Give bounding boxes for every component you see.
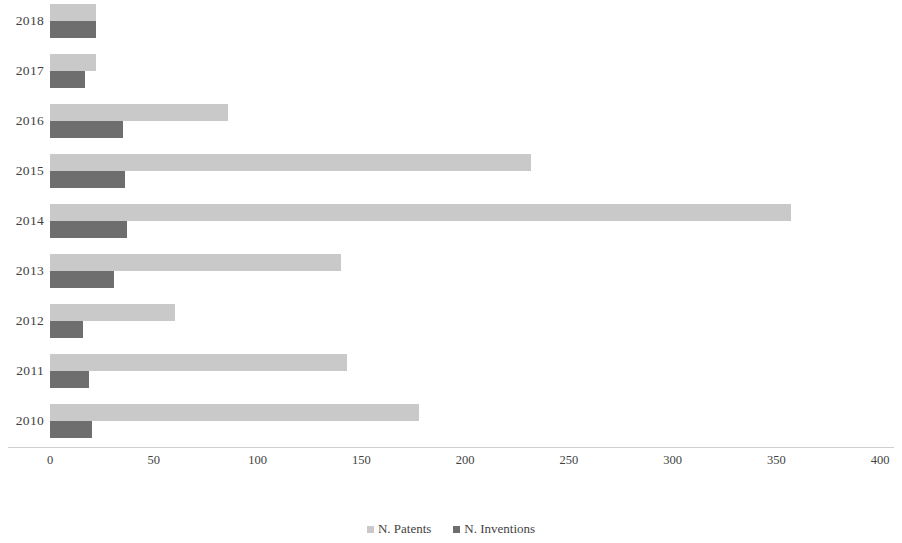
bar-inventions-2012 bbox=[50, 321, 83, 338]
legend-swatch-inventions bbox=[453, 526, 460, 533]
chart-row-2013: 2013 bbox=[0, 250, 902, 300]
x-tick-250: 250 bbox=[559, 453, 578, 468]
category-label: 2013 bbox=[0, 263, 44, 279]
bar-inventions-2011 bbox=[50, 371, 89, 388]
chart-row-2016: 2016 bbox=[0, 100, 902, 150]
bar-patents-2012 bbox=[50, 304, 175, 321]
bar-patents-2017 bbox=[50, 54, 96, 71]
category-label: 2011 bbox=[0, 363, 44, 379]
legend-label-1: N. Inventions bbox=[464, 521, 535, 537]
bar-patents-2013 bbox=[50, 254, 341, 271]
bar-patents-2014 bbox=[50, 204, 791, 221]
category-label: 2016 bbox=[0, 113, 44, 129]
bar-patents-2018 bbox=[50, 4, 96, 21]
x-axis-line bbox=[8, 447, 894, 448]
legend-label-0: N. Patents bbox=[378, 521, 431, 537]
category-label: 2017 bbox=[0, 63, 44, 79]
plot-area: 201820172016201520142013201220112010 bbox=[0, 0, 902, 455]
bar-chart: 201820172016201520142013201220112010 050… bbox=[0, 0, 902, 543]
x-tick-400: 400 bbox=[871, 453, 890, 468]
bar-inventions-2018 bbox=[50, 21, 96, 38]
category-label: 2014 bbox=[0, 213, 44, 229]
x-tick-350: 350 bbox=[767, 453, 786, 468]
legend-item-1: N. Inventions bbox=[453, 521, 535, 537]
chart-row-2017: 2017 bbox=[0, 50, 902, 100]
bar-inventions-2010 bbox=[50, 421, 92, 438]
x-tick-300: 300 bbox=[663, 453, 682, 468]
bar-inventions-2016 bbox=[50, 121, 123, 138]
x-tick-200: 200 bbox=[456, 453, 475, 468]
bar-patents-2011 bbox=[50, 354, 347, 371]
chart-row-2012: 2012 bbox=[0, 300, 902, 350]
category-label: 2018 bbox=[0, 13, 44, 29]
bar-patents-2016 bbox=[50, 104, 228, 121]
chart-row-2018: 2018 bbox=[0, 0, 902, 50]
category-label: 2012 bbox=[0, 313, 44, 329]
bar-patents-2010 bbox=[50, 404, 419, 421]
bar-inventions-2014 bbox=[50, 221, 127, 238]
chart-row-2015: 2015 bbox=[0, 150, 902, 200]
category-label: 2010 bbox=[0, 413, 44, 429]
chart-row-2014: 2014 bbox=[0, 200, 902, 250]
x-tick-0: 0 bbox=[47, 453, 53, 468]
bar-inventions-2013 bbox=[50, 271, 114, 288]
legend-swatch-patents bbox=[367, 526, 374, 533]
chart-row-2010: 2010 bbox=[0, 400, 902, 450]
bar-inventions-2017 bbox=[50, 71, 85, 88]
x-tick-100: 100 bbox=[248, 453, 267, 468]
chart-row-2011: 2011 bbox=[0, 350, 902, 400]
bar-patents-2015 bbox=[50, 154, 531, 171]
bar-inventions-2015 bbox=[50, 171, 125, 188]
chart-legend: N. PatentsN. Inventions bbox=[0, 518, 902, 540]
x-tick-50: 50 bbox=[148, 453, 161, 468]
legend-item-0: N. Patents bbox=[367, 521, 431, 537]
category-label: 2015 bbox=[0, 163, 44, 179]
x-tick-150: 150 bbox=[352, 453, 371, 468]
x-axis-tick-labels: 050100150200250300350400 bbox=[0, 453, 902, 473]
